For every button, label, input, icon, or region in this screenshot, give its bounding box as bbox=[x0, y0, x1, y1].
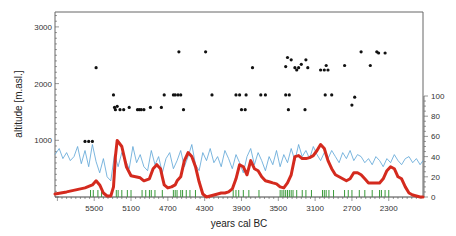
altitude-dot bbox=[174, 93, 177, 96]
x-tick-label: 2300 bbox=[380, 204, 398, 213]
altitude-dot bbox=[288, 93, 291, 96]
altitude-dot bbox=[330, 93, 333, 96]
chart: 100020003000 020406080100 55005100470043… bbox=[0, 0, 456, 236]
x-tick-label: 3500 bbox=[269, 204, 287, 213]
altitude-dot bbox=[179, 93, 182, 96]
altitude-dot bbox=[245, 93, 248, 96]
x-tick-label: 5500 bbox=[85, 204, 103, 213]
blue-line bbox=[55, 145, 423, 181]
altitude-dot bbox=[122, 108, 125, 111]
altitude-dot bbox=[369, 64, 372, 67]
altitude-dot bbox=[324, 93, 327, 96]
y2-tick-label: 0 bbox=[431, 193, 436, 202]
altitude-dot bbox=[304, 58, 307, 61]
altitude-dot bbox=[306, 66, 309, 69]
altitude-dot bbox=[384, 51, 387, 54]
altitude-dot bbox=[353, 96, 356, 99]
x-tick-label: 5100 bbox=[122, 204, 140, 213]
red-line bbox=[55, 140, 423, 197]
altitude-dot bbox=[244, 108, 247, 111]
altitude-dot bbox=[142, 108, 145, 111]
altitude-dot bbox=[360, 50, 363, 53]
altitude-dot bbox=[290, 58, 293, 61]
x-axis: 550051004700430039003500310027002300 bbox=[57, 197, 421, 213]
y-tick-label: 1000 bbox=[34, 136, 52, 145]
altitude-dot bbox=[182, 108, 185, 111]
altitude-dot bbox=[286, 56, 289, 59]
y2-tick-label: 20 bbox=[431, 173, 440, 182]
x-tick-label: 4300 bbox=[196, 204, 214, 213]
y-axis-label: altitude [m.asl.] bbox=[13, 70, 24, 137]
x-tick-label: 2700 bbox=[343, 204, 361, 213]
altitude-dot bbox=[326, 68, 329, 71]
altitude-dot bbox=[204, 50, 207, 53]
right-axis: 020406080100 bbox=[424, 92, 445, 202]
altitude-dot bbox=[297, 66, 300, 69]
x-axis-label: years cal BC bbox=[211, 218, 268, 229]
y-tick-label: 3000 bbox=[34, 23, 52, 32]
altitude-dot bbox=[83, 140, 86, 143]
altitude-dot bbox=[251, 66, 254, 69]
altitude-dot bbox=[240, 108, 243, 111]
x-tick-label: 3100 bbox=[306, 204, 324, 213]
altitude-dot bbox=[149, 106, 152, 109]
blue-line-series bbox=[55, 145, 423, 181]
altitude-dot bbox=[319, 68, 322, 71]
green-marker-series bbox=[91, 190, 389, 197]
y2-tick-label: 60 bbox=[431, 132, 440, 141]
altitude-dot bbox=[234, 93, 237, 96]
x-tick-label: 3900 bbox=[233, 204, 251, 213]
altitude-dot bbox=[114, 108, 117, 111]
x-tick-label: 4700 bbox=[159, 204, 177, 213]
altitude-dot bbox=[287, 108, 290, 111]
y2-tick-label: 100 bbox=[431, 92, 445, 101]
altitude-dot bbox=[259, 93, 262, 96]
altitude-dot bbox=[163, 93, 166, 96]
altitude-dot bbox=[238, 93, 241, 96]
altitude-dot bbox=[300, 63, 303, 66]
altitude-dot bbox=[264, 93, 267, 96]
altitude-dot bbox=[210, 93, 213, 96]
red-line-series bbox=[55, 140, 423, 197]
altitude-dot bbox=[118, 108, 121, 111]
altitude-dot bbox=[325, 64, 328, 67]
altitude-dot-series bbox=[83, 50, 386, 143]
altitude-dot bbox=[116, 105, 119, 108]
altitude-dot bbox=[284, 93, 287, 96]
altitude-dot bbox=[323, 68, 326, 71]
altitude-dot bbox=[112, 93, 115, 96]
y-tick-label: 2000 bbox=[34, 80, 52, 89]
altitude-dot bbox=[284, 65, 287, 68]
altitude-dot bbox=[177, 50, 180, 53]
y2-tick-label: 40 bbox=[431, 153, 440, 162]
altitude-dot bbox=[303, 108, 306, 111]
altitude-dot bbox=[343, 64, 346, 67]
altitude-dot bbox=[160, 106, 163, 109]
altitude-dot bbox=[377, 51, 380, 54]
altitude-dot bbox=[95, 66, 98, 69]
y2-tick-label: 80 bbox=[431, 112, 440, 121]
altitude-dot bbox=[91, 140, 94, 143]
altitude-dot bbox=[128, 106, 131, 109]
altitude-dot bbox=[87, 140, 90, 143]
altitude-dot bbox=[350, 104, 353, 107]
